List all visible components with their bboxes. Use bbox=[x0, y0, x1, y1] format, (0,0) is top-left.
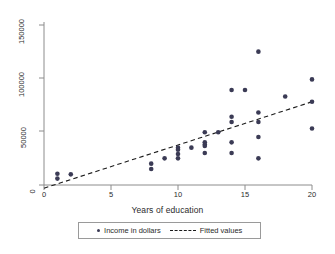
scatter-point bbox=[216, 130, 221, 135]
scatter-point bbox=[203, 144, 208, 149]
scatter-point bbox=[229, 88, 234, 93]
scatter-point bbox=[310, 100, 315, 105]
scatter-point bbox=[229, 114, 234, 119]
x-tick-label-15: 15 bbox=[235, 190, 255, 199]
legend-dot-icon bbox=[97, 229, 100, 232]
x-tick-label-0: 0 bbox=[34, 190, 54, 199]
legend-label-fitted: Fitted values bbox=[200, 226, 243, 235]
scatter-point bbox=[176, 148, 181, 153]
x-tick-label-5: 5 bbox=[101, 190, 121, 199]
x-tick-label-20: 20 bbox=[302, 190, 322, 199]
plot-canvas bbox=[0, 0, 335, 254]
scatter-point bbox=[283, 94, 288, 99]
scatter-point bbox=[55, 176, 60, 181]
legend-label-income: Income in dollars bbox=[104, 226, 161, 235]
x-axis-title: Years of education bbox=[0, 205, 335, 215]
scatter-point bbox=[310, 126, 315, 131]
scatter-point bbox=[256, 110, 261, 115]
y-tick-label-50000: 50000 bbox=[0, 126, 34, 136]
legend-entry-fitted: Fitted values bbox=[170, 226, 243, 235]
scatter-point bbox=[229, 120, 234, 125]
scatter-point bbox=[69, 172, 74, 177]
scatter-plot-figure: 150000 100000 50000 0 0 5 10 15 20 Years… bbox=[0, 0, 335, 254]
y-axis-ticks bbox=[39, 25, 44, 185]
legend-dashed-line-icon bbox=[170, 230, 196, 231]
scatter-point bbox=[229, 140, 234, 145]
y-tick-label-0: 0 bbox=[0, 180, 34, 190]
scatter-points-layer bbox=[55, 49, 314, 181]
scatter-point bbox=[162, 156, 167, 161]
scatter-point bbox=[256, 49, 261, 54]
scatter-point bbox=[256, 120, 261, 125]
scatter-point bbox=[256, 156, 261, 161]
scatter-point bbox=[229, 151, 234, 156]
scatter-point bbox=[203, 130, 208, 135]
scatter-point bbox=[176, 156, 181, 161]
scatter-point bbox=[176, 152, 181, 157]
scatter-point bbox=[203, 151, 208, 156]
legend-entry-income: Income in dollars bbox=[97, 226, 161, 235]
scatter-point bbox=[189, 145, 194, 150]
x-tick-label-10: 10 bbox=[168, 190, 188, 199]
scatter-point bbox=[55, 172, 60, 177]
scatter-point bbox=[243, 88, 248, 93]
chart-legend: Income in dollars Fitted values bbox=[78, 222, 261, 239]
y-tick-label-150000: 150000 bbox=[0, 20, 34, 30]
y-tick-label-100000: 100000 bbox=[0, 73, 34, 83]
scatter-point bbox=[256, 135, 261, 140]
fitted-values-line bbox=[44, 102, 312, 188]
scatter-point bbox=[310, 77, 315, 82]
scatter-point bbox=[149, 161, 154, 166]
scatter-point bbox=[149, 167, 154, 172]
